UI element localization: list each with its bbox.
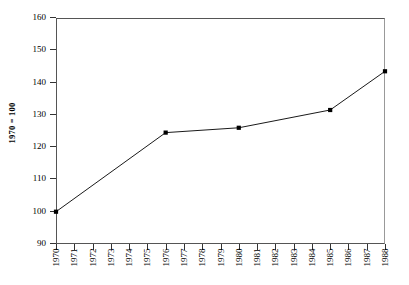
x-tick-label: 1984 — [306, 236, 317, 280]
y-tick-mark — [50, 211, 56, 212]
y-tick-label: 90 — [0, 238, 46, 249]
y-tick-mark — [50, 17, 56, 18]
y-tick-label: 140 — [0, 77, 46, 88]
x-tick-label: 1973 — [105, 236, 116, 280]
y-tick-mark — [50, 82, 56, 83]
y-tick-label: 160 — [0, 12, 46, 23]
x-tick-label: 1983 — [288, 236, 299, 280]
y-tick-label: 110 — [0, 173, 46, 184]
x-tick-label: 1971 — [69, 236, 80, 280]
x-tick-label: 1972 — [87, 236, 98, 280]
y-tick-label: 120 — [0, 141, 46, 152]
x-tick-label: 1978 — [197, 236, 208, 280]
y-tick-mark — [50, 49, 56, 50]
x-tick-label: 1979 — [215, 236, 226, 280]
y-tick-label: 130 — [0, 109, 46, 120]
x-tick-label: 1975 — [142, 236, 153, 280]
x-tick-label: 1987 — [361, 236, 372, 280]
chart-container: 1970 = 100 90100110120130140150160 19701… — [0, 0, 409, 285]
y-tick-mark — [50, 178, 56, 179]
x-tick-label: 1982 — [270, 236, 281, 280]
x-tick-label: 1977 — [178, 236, 189, 280]
y-tick-mark — [50, 114, 56, 115]
x-tick-label: 1988 — [380, 236, 391, 280]
x-tick-label: 1986 — [343, 236, 354, 280]
x-tick-label: 1974 — [124, 236, 135, 280]
x-tick-label: 1985 — [325, 236, 336, 280]
x-tick-label: 1980 — [233, 236, 244, 280]
y-tick-mark — [50, 146, 56, 147]
plot-area — [56, 18, 385, 244]
x-tick-label: 1976 — [160, 236, 171, 280]
y-tick-label: 100 — [0, 206, 46, 217]
x-tick-label: 1981 — [252, 236, 263, 280]
y-tick-label: 150 — [0, 44, 46, 55]
x-tick-label: 1970 — [51, 236, 62, 280]
